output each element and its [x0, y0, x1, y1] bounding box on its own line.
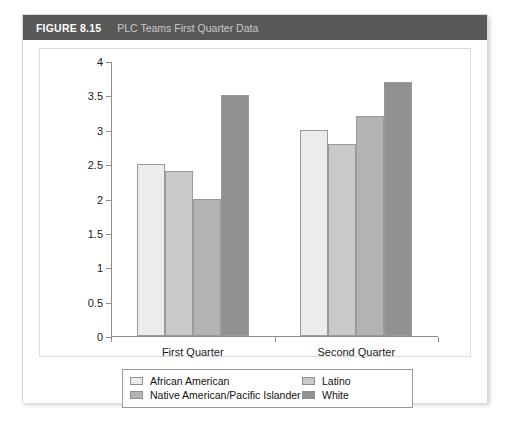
y-axis-tick-label: 1.5 [88, 228, 103, 240]
legend-label: Latino [322, 375, 351, 387]
figure-body: 00.511.522.533.54 First QuarterSecond Qu… [23, 40, 487, 403]
x-axis-group-label: Second Quarter [317, 346, 395, 358]
legend-label: African American [150, 375, 229, 387]
y-axis-tick [106, 96, 111, 97]
legend-swatch [302, 377, 315, 385]
bar [165, 171, 193, 336]
x-axis-group-label: First Quarter [162, 346, 224, 358]
y-axis-tick-label: 3.5 [88, 90, 103, 102]
legend-swatch [130, 391, 143, 399]
y-axis-tick [106, 165, 111, 166]
y-axis-tick-label: 2.5 [88, 159, 103, 171]
y-axis-line [111, 62, 112, 337]
y-axis-tick [106, 62, 111, 63]
x-axis-tick [111, 337, 112, 342]
bar [300, 130, 328, 336]
y-axis-tick [106, 234, 111, 235]
y-axis-tick [106, 268, 111, 269]
legend-label: White [322, 389, 349, 401]
y-axis-tick-label: 0.5 [88, 297, 103, 309]
legend-swatch [302, 391, 315, 399]
x-axis-tick [438, 337, 439, 342]
bar [221, 95, 249, 336]
y-axis-tick-label: 4 [97, 56, 103, 68]
y-axis-tick-label: 2 [97, 194, 103, 206]
x-axis-tick [275, 337, 276, 342]
chart-legend: African AmericanLatinoNative American/Pa… [122, 369, 413, 408]
y-axis-tick-label: 3 [97, 125, 103, 137]
figure-number-label: FIGURE 8.15 [36, 22, 101, 34]
y-axis-tick [106, 131, 111, 132]
y-axis-tick [106, 303, 111, 304]
figure-caption: PLC Teams First Quarter Data [117, 22, 258, 34]
bar [356, 116, 384, 336]
y-axis-tick [106, 200, 111, 201]
legend-item: African American [130, 374, 298, 388]
legend-item: White [302, 388, 405, 402]
y-axis-tick-label: 1 [97, 262, 103, 274]
bar [328, 144, 356, 337]
legend-item: Latino [302, 374, 405, 388]
bar [384, 82, 412, 336]
legend-label: Native American/Pacific Islander [150, 389, 301, 401]
y-axis-tick-label: 0 [97, 331, 103, 343]
plot-area: 00.511.522.533.54 First QuarterSecond Qu… [111, 62, 438, 337]
figure-header: FIGURE 8.15 PLC Teams First Quarter Data [23, 15, 487, 40]
legend-item: Native American/Pacific Islander [130, 388, 298, 402]
figure-card: FIGURE 8.15 PLC Teams First Quarter Data… [22, 14, 488, 402]
legend-swatch [130, 377, 143, 385]
bar [193, 199, 221, 337]
bar [137, 164, 165, 336]
